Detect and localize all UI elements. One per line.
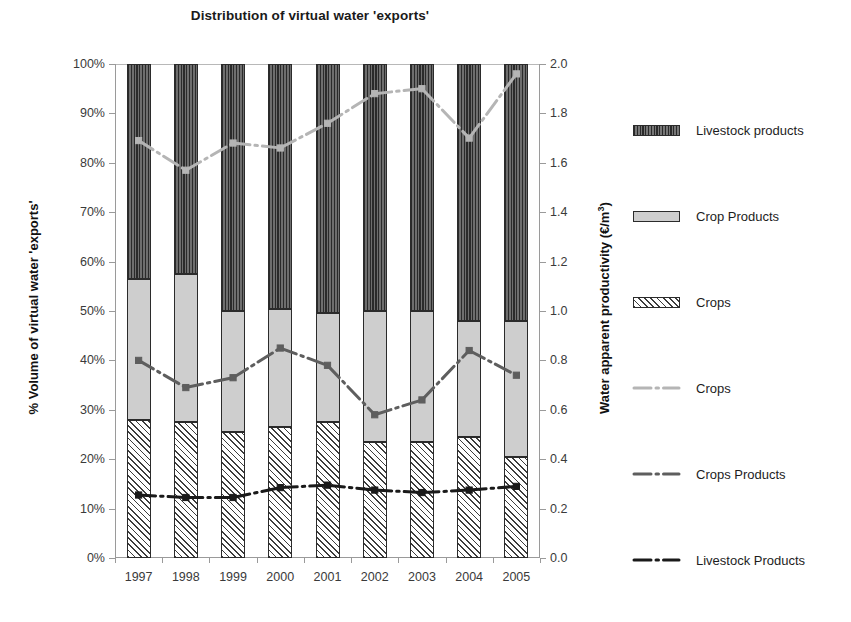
bar-segment[interactable] bbox=[221, 432, 245, 558]
bar-segment[interactable] bbox=[268, 427, 292, 558]
stacked-bar[interactable] bbox=[504, 64, 528, 558]
left-axis-tick-label: 30% bbox=[80, 403, 105, 417]
bar-segment[interactable] bbox=[174, 274, 198, 422]
bar-segment[interactable] bbox=[221, 311, 245, 432]
bar-segment[interactable] bbox=[174, 64, 198, 274]
right-axis-tick-label: 0.8 bbox=[550, 353, 567, 367]
category-axis-tick-label: 2000 bbox=[266, 570, 294, 584]
right-axis-tick bbox=[540, 509, 546, 510]
bar-segment[interactable] bbox=[457, 321, 481, 437]
right-axis-title-text: Water apparent productivity (€/m bbox=[597, 212, 612, 415]
legend-item[interactable]: Crop Products bbox=[633, 204, 851, 228]
stacked-bar[interactable] bbox=[363, 64, 387, 558]
bar-segment[interactable] bbox=[316, 422, 340, 558]
bar-segment[interactable] bbox=[457, 64, 481, 321]
chart-page: Distribution of virtual water 'exports' … bbox=[0, 0, 851, 622]
bar-segment[interactable] bbox=[504, 64, 528, 321]
bar-segment[interactable] bbox=[127, 64, 151, 279]
light-gray-dash-dot-line-icon bbox=[633, 382, 680, 394]
left-axis-tick-label: 60% bbox=[80, 255, 105, 269]
right-axis-tick bbox=[540, 410, 546, 411]
left-axis-tick-label: 70% bbox=[80, 205, 105, 219]
bar-segment[interactable] bbox=[504, 321, 528, 457]
legend-item[interactable]: Crops bbox=[633, 290, 851, 314]
left-axis-tick bbox=[109, 212, 115, 213]
bar-segment[interactable] bbox=[221, 64, 245, 311]
diagonal-hatch-swatch bbox=[633, 297, 680, 308]
vertical-hatch-swatch bbox=[633, 125, 680, 136]
bar-segment[interactable] bbox=[410, 64, 434, 311]
right-axis-tick bbox=[540, 163, 546, 164]
stacked-bar[interactable] bbox=[457, 64, 481, 558]
left-axis-tick-label: 20% bbox=[80, 452, 105, 466]
bar-segment[interactable] bbox=[174, 422, 198, 558]
stacked-bar[interactable] bbox=[127, 64, 151, 558]
left-axis-title: % Volume of virtual water 'exports' bbox=[26, 158, 41, 458]
category-axis-tick bbox=[115, 558, 116, 563]
stacked-bar[interactable] bbox=[174, 64, 198, 558]
left-axis-tick bbox=[109, 459, 115, 460]
right-axis-title-exponent: 3 bbox=[596, 207, 606, 212]
left-axis-tick bbox=[109, 163, 115, 164]
bar-segment[interactable] bbox=[363, 311, 387, 442]
right-axis-tick-label: 1.6 bbox=[550, 156, 567, 170]
solid-gray-swatch bbox=[633, 211, 680, 222]
category-axis-tick-label: 2003 bbox=[408, 570, 436, 584]
left-axis-tick bbox=[109, 64, 115, 65]
category-axis-tick bbox=[162, 558, 163, 563]
right-axis-tick bbox=[540, 64, 546, 65]
right-axis-tick-label: 0.0 bbox=[550, 551, 567, 565]
bar-segment[interactable] bbox=[268, 309, 292, 428]
legend-item[interactable]: Livestock products bbox=[633, 118, 851, 142]
plot-area: 0%10%20%30%40%50%60%70%80%90%100% 0.00.2… bbox=[115, 64, 540, 558]
left-axis-tick-label: 50% bbox=[80, 304, 105, 318]
legend-item-label: Livestock products bbox=[696, 123, 804, 138]
bar-segment[interactable] bbox=[316, 64, 340, 313]
category-axis-tick bbox=[304, 558, 305, 563]
chart-legend: Livestock productsCrop ProductsCropsCrop… bbox=[633, 118, 851, 622]
legend-item-label: Crops bbox=[696, 295, 731, 310]
category-axis-tick bbox=[257, 558, 258, 563]
stacked-bar[interactable] bbox=[221, 64, 245, 558]
right-axis-tick bbox=[540, 212, 546, 213]
legend-item-label: Livestock Products bbox=[696, 553, 805, 568]
right-axis-tick-label: 1.8 bbox=[550, 106, 567, 120]
right-axis-title-tail: ) bbox=[597, 202, 612, 206]
right-axis-tick-label: 1.4 bbox=[550, 205, 567, 219]
bar-segment[interactable] bbox=[268, 64, 292, 309]
bar-segment[interactable] bbox=[457, 437, 481, 558]
bar-segment[interactable] bbox=[363, 64, 387, 311]
right-axis-tick-label: 0.4 bbox=[550, 452, 567, 466]
bar-segment[interactable] bbox=[127, 420, 151, 558]
right-axis-tick bbox=[540, 113, 546, 114]
left-axis-tick-label: 90% bbox=[80, 106, 105, 120]
right-axis-tick-label: 0.6 bbox=[550, 403, 567, 417]
right-axis-tick bbox=[540, 459, 546, 460]
left-axis-tick-label: 100% bbox=[73, 57, 105, 71]
legend-item[interactable]: Crops bbox=[633, 376, 851, 400]
bar-segment[interactable] bbox=[316, 313, 340, 422]
category-axis-tick bbox=[493, 558, 494, 563]
right-axis-tick-label: 0.2 bbox=[550, 502, 567, 516]
category-axis-tick-label: 1997 bbox=[125, 570, 153, 584]
bar-segment[interactable] bbox=[504, 457, 528, 558]
left-axis-tick-label: 0% bbox=[87, 551, 105, 565]
left-axis-tick bbox=[109, 410, 115, 411]
bar-segment[interactable] bbox=[410, 311, 434, 442]
stacked-bar[interactable] bbox=[316, 64, 340, 558]
legend-item[interactable]: Crops Products bbox=[633, 462, 851, 486]
legend-item[interactable]: Livestock Products bbox=[633, 548, 851, 572]
page-title: Distribution of virtual water 'exports' bbox=[0, 8, 620, 23]
black-dash-dot-line-icon bbox=[633, 554, 680, 566]
legend-item-label: Crop Products bbox=[696, 209, 779, 224]
bar-segment[interactable] bbox=[127, 279, 151, 420]
stacked-bar[interactable] bbox=[410, 64, 434, 558]
right-axis-tick-label: 2.0 bbox=[550, 57, 567, 71]
left-axis-tick bbox=[109, 311, 115, 312]
bar-segment[interactable] bbox=[363, 442, 387, 558]
category-axis-tick-label: 2004 bbox=[455, 570, 483, 584]
bar-segment[interactable] bbox=[410, 442, 434, 558]
category-axis-tick bbox=[351, 558, 352, 563]
category-axis-tick bbox=[398, 558, 399, 563]
stacked-bar[interactable] bbox=[268, 64, 292, 558]
